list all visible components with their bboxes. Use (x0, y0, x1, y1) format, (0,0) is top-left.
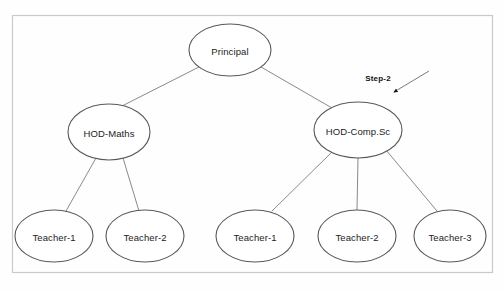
node-teacher-c2[interactable] (318, 210, 396, 262)
step-2-annotation-label: Step-2 (365, 74, 391, 83)
edge-principal-to-hod-comp-sc (261, 67, 332, 108)
edge-hod-maths-to-teacher-m1 (66, 158, 96, 211)
node-layer (15, 24, 486, 262)
node-teacher-m1[interactable] (15, 210, 93, 262)
edge-hod-comp-sc-to-teacher-c2 (357, 158, 358, 210)
step-2-arrow (394, 71, 429, 92)
edge-hod-maths-to-teacher-m2 (123, 158, 139, 211)
node-hod-maths[interactable] (68, 104, 150, 160)
edge-principal-to-hod-maths (122, 67, 199, 106)
node-teacher-m2[interactable] (106, 210, 184, 262)
node-teacher-c1[interactable] (216, 210, 294, 262)
node-principal[interactable] (189, 24, 271, 76)
node-teacher-c3[interactable] (414, 210, 486, 262)
hierarchy-diagram (0, 0, 504, 292)
diagram-canvas: PrincipalHOD-MathsHOD-Comp.ScTeacher-1Te… (0, 0, 504, 292)
edge-hod-comp-sc-to-teacher-c3 (386, 150, 437, 211)
annotation-layer (394, 71, 429, 92)
edge-hod-comp-sc-to-teacher-c1 (272, 152, 332, 211)
node-hod-comp-sc[interactable] (314, 102, 402, 158)
